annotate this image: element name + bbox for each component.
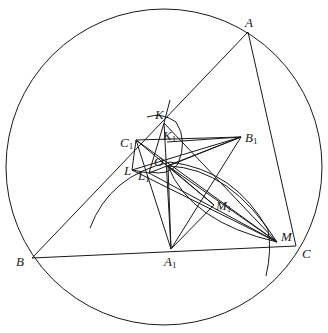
label-b1: B1 <box>245 130 257 146</box>
label-c1: C1 <box>120 135 133 151</box>
medial-triangle <box>136 137 241 249</box>
label-o: O <box>154 154 164 169</box>
construction-lines <box>132 100 277 249</box>
label-a: A <box>244 15 253 30</box>
label-a1: A1 <box>163 254 176 270</box>
geometry-diagram: A B C A1 B1 C1 K K1 O L L1 M1 M <box>0 0 328 333</box>
label-c: C <box>302 246 311 261</box>
line-m1-a1 <box>171 205 214 249</box>
line-k-ext <box>164 100 170 123</box>
label-k1: K1 <box>162 128 176 144</box>
line-l-m <box>132 170 277 242</box>
label-m1: M1 <box>215 198 231 214</box>
label-m: M <box>280 229 293 244</box>
label-l1: L1 <box>137 168 150 184</box>
label-k: K <box>154 107 165 122</box>
label-b: B <box>16 254 24 269</box>
arc-large-left <box>90 162 270 276</box>
label-l: L <box>123 163 131 178</box>
